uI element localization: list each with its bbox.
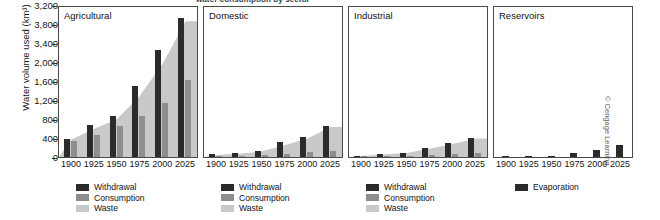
bar-evaporation (570, 153, 577, 157)
bar-consumption (361, 156, 367, 157)
x-axis-tick-label: 1925 (229, 160, 249, 169)
x-axis-tick-label: 1975 (564, 160, 584, 169)
x-axis-tick-label: 1900 (351, 160, 371, 169)
x-axis-tick-label: 1950 (542, 160, 562, 169)
x-axis-tick-label: 2000 (442, 160, 462, 169)
bar-evaporation (548, 156, 555, 157)
plot-area (59, 7, 197, 157)
bar-consumption (429, 155, 435, 157)
bar-evaporation (593, 150, 600, 158)
x-axis-tick-label: 1950 (107, 160, 127, 169)
y-axis-tick-mark (52, 101, 57, 102)
x-axis-tick-label: 2025 (610, 160, 630, 169)
bar-withdrawal (277, 142, 283, 157)
chart-panel-domestic: Domestic (203, 6, 343, 158)
bar-withdrawal (377, 154, 383, 157)
bar-withdrawal (87, 125, 93, 157)
y-axis-tick-mark (52, 44, 57, 45)
x-axis-tick-label: 1925 (84, 160, 104, 169)
legend-item-consumption: Consumption (221, 193, 290, 204)
bar-evaporation (525, 156, 532, 157)
legend-item-evaporation: Evaporation (515, 182, 579, 193)
waste-band (204, 7, 342, 157)
legend-item-withdrawal: Withdrawal (76, 182, 145, 193)
bar-consumption (162, 103, 168, 157)
y-axis-tick-mark (52, 120, 57, 121)
x-axis-industrial: 190019251950197520002025 (348, 160, 488, 174)
bar-consumption (330, 151, 336, 157)
bar-withdrawal (445, 143, 451, 157)
bar-withdrawal (400, 153, 406, 157)
bar-consumption (475, 153, 481, 157)
y-axis-tick-mark (52, 25, 57, 26)
x-axis-tick-label: 1975 (419, 160, 439, 169)
y-axis-tick-mark (52, 82, 57, 83)
x-axis-tick-label: 1950 (397, 160, 417, 169)
x-axis-reservoirs: 190019251950197520002025 (493, 160, 633, 174)
y-axis-tick-mark (52, 158, 57, 159)
bar-withdrawal (178, 18, 184, 157)
bar-withdrawal (232, 153, 238, 157)
legend-reservoirs: Evaporation (515, 182, 579, 193)
y-axis-tick-mark (52, 63, 57, 64)
y-axis-tick-mark (52, 139, 57, 140)
x-axis-tick-label: 1925 (374, 160, 394, 169)
legend-item-consumption: Consumption (76, 193, 145, 204)
bar-consumption (216, 156, 222, 157)
bar-withdrawal (323, 126, 329, 157)
bar-consumption (307, 152, 313, 157)
y-axis: Water volume used (km³) 3,2003,8003,4002… (0, 0, 58, 175)
bar-withdrawal (110, 116, 116, 157)
legend-label-waste: Waste (94, 203, 118, 214)
legend-label-waste: Waste (384, 203, 408, 214)
panel-title: Industrial (354, 10, 393, 21)
legend-label-waste: Waste (239, 203, 263, 214)
legend-label-consumption: Consumption (239, 193, 290, 204)
bar-withdrawal (255, 151, 261, 157)
legend-agricultural: WithdrawalConsumptionWaste (76, 182, 145, 214)
copyright-credit: © Cengage Learning (603, 96, 612, 188)
legend-swatch-consumption (366, 194, 379, 201)
legend-item-waste: Waste (76, 203, 145, 214)
legend-swatch-waste (76, 205, 89, 212)
y-axis-tick-mark (52, 6, 57, 7)
bar-consumption (284, 154, 290, 157)
x-axis-tick-label: 1900 (206, 160, 226, 169)
bar-withdrawal (155, 50, 161, 157)
bar-consumption (117, 126, 123, 157)
legend-swatch-withdrawal (221, 184, 234, 191)
cropped-caption-text: water consumption by sector (196, 0, 468, 4)
x-axis-tick-label: 2000 (152, 160, 172, 169)
x-axis-domestic: 190019251950197520002025 (203, 160, 343, 174)
waste-band (59, 7, 197, 157)
bar-withdrawal (132, 86, 138, 157)
x-axis-tick-label: 1900 (496, 160, 516, 169)
legend-label-withdrawal: Withdrawal (239, 182, 282, 193)
legend-item-withdrawal: Withdrawal (366, 182, 435, 193)
legend-label-consumption: Consumption (94, 193, 145, 204)
bar-consumption (94, 135, 100, 157)
x-axis-agricultural: 190019251950197520002025 (58, 160, 198, 174)
x-axis-tick-label: 1900 (61, 160, 81, 169)
bar-consumption (71, 141, 77, 157)
legend-swatch-withdrawal (366, 184, 379, 191)
x-axis-tick-label: 1950 (252, 160, 272, 169)
legend-industrial: WithdrawalConsumptionWaste (366, 182, 435, 214)
bar-withdrawal (209, 154, 215, 157)
chart-panel-reservoirs: Reservoirs (493, 6, 633, 158)
legend-domestic: WithdrawalConsumptionWaste (221, 182, 290, 214)
legend-swatch-waste (366, 205, 379, 212)
legend-swatch-waste (221, 205, 234, 212)
plot-area (349, 7, 487, 157)
legend-label-evaporation: Evaporation (533, 182, 579, 193)
bar-withdrawal (354, 156, 360, 157)
bar-consumption (384, 156, 390, 157)
x-axis-tick-label: 2025 (175, 160, 195, 169)
bar-withdrawal (468, 138, 474, 157)
chart-panel-industrial: Industrial (348, 6, 488, 158)
chart-panel-agricultural: Agricultural (58, 6, 198, 158)
panel-title: Agricultural (64, 10, 112, 21)
bar-withdrawal (300, 137, 306, 157)
x-axis-tick-label: 2000 (297, 160, 317, 169)
legend-item-waste: Waste (221, 203, 290, 214)
